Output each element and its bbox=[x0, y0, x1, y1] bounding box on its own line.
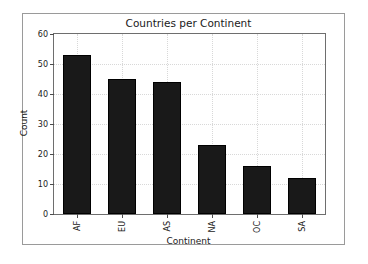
chart-title: Countries per Continent bbox=[53, 17, 324, 30]
x-tick-mark bbox=[167, 214, 168, 218]
y-tick-label: 30 bbox=[38, 120, 48, 129]
x-tick-label: NA bbox=[208, 221, 217, 232]
bar bbox=[288, 178, 316, 214]
x-tick-label: EU bbox=[117, 221, 126, 232]
y-tick-label: 0 bbox=[43, 210, 48, 219]
bar bbox=[243, 166, 271, 214]
bar bbox=[153, 82, 181, 214]
y-tick-mark bbox=[50, 124, 54, 125]
gridline-horizontal bbox=[54, 94, 325, 95]
bar bbox=[63, 55, 91, 214]
x-tick-label: OC bbox=[253, 221, 262, 233]
y-tick-label: 50 bbox=[38, 60, 48, 69]
x-tick-label: AS bbox=[162, 221, 171, 232]
bar bbox=[108, 79, 136, 214]
y-tick-label: 10 bbox=[38, 180, 48, 189]
x-tick-mark bbox=[302, 214, 303, 218]
y-tick-mark bbox=[50, 34, 54, 35]
y-tick-mark bbox=[50, 184, 54, 185]
x-tick-mark bbox=[77, 214, 78, 218]
y-tick-label: 40 bbox=[38, 90, 48, 99]
figure-canvas: Countries per Continent 0102030405060 AF… bbox=[0, 0, 368, 264]
y-tick-label: 20 bbox=[38, 150, 48, 159]
gridline-horizontal bbox=[54, 184, 325, 185]
y-tick-mark bbox=[50, 154, 54, 155]
x-tick-mark bbox=[122, 214, 123, 218]
y-tick-mark bbox=[50, 64, 54, 65]
x-axis-label: Continent bbox=[53, 236, 324, 246]
gridline-horizontal bbox=[54, 124, 325, 125]
gridline-horizontal bbox=[54, 64, 325, 65]
x-tick-mark bbox=[212, 214, 213, 218]
plot-area: 0102030405060 AFEUASNAOCSA bbox=[53, 33, 326, 215]
y-tick-label: 60 bbox=[38, 30, 48, 39]
y-tick-mark bbox=[50, 214, 54, 215]
gridline-horizontal bbox=[54, 154, 325, 155]
x-tick-label: AF bbox=[72, 221, 81, 231]
y-tick-mark bbox=[50, 94, 54, 95]
x-tick-mark bbox=[257, 214, 258, 218]
bar bbox=[198, 145, 226, 214]
x-tick-label: SA bbox=[298, 221, 307, 232]
y-axis-label: Count bbox=[19, 110, 29, 137]
